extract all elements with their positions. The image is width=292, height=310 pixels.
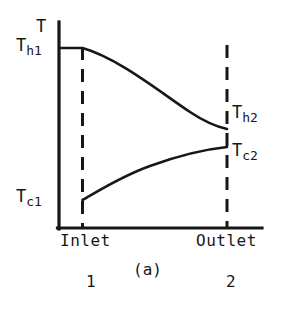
figure-caption: (a)	[133, 262, 162, 278]
x-tick-label-inlet: Inlet	[60, 233, 111, 249]
label-hot-outlet-subscript: h2	[242, 110, 258, 125]
label-cold-outlet-subscript: c2	[242, 148, 258, 163]
label-cold-outlet-temperature: Tc2	[232, 142, 258, 162]
label-cold-inlet-base: T	[16, 186, 26, 206]
hot-stream-curve	[59, 48, 227, 129]
temperature-profile-figure: T Th1 Th2 Tc2 Tc1 Inlet Outlet 1 2 (a)	[0, 0, 292, 310]
label-cold-outlet-base: T	[232, 140, 242, 160]
label-hot-inlet-subscript: h1	[26, 43, 42, 58]
x-tick-label-outlet: Outlet	[196, 233, 257, 249]
y-axis-title: T	[36, 18, 46, 35]
label-hot-inlet-base: T	[16, 35, 26, 55]
station-number-1: 1	[86, 274, 96, 290]
cold-stream-curve	[83, 147, 228, 200]
label-hot-outlet-base: T	[232, 102, 242, 122]
label-cold-inlet-temperature: Tc1	[16, 188, 42, 208]
label-hot-inlet-temperature: Th1	[16, 37, 42, 57]
station-number-2: 2	[226, 274, 236, 290]
label-hot-outlet-temperature: Th2	[232, 104, 258, 124]
label-cold-inlet-subscript: c1	[26, 194, 42, 209]
